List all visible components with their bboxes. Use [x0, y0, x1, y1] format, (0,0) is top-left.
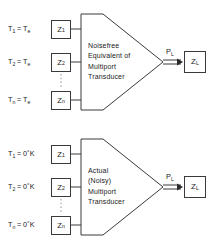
diagram-panel-actual-noisy: T1=0°K T2=0°K Tn=0°K Z1 Z2 Zn Actual (No… [0, 125, 215, 250]
output-power-label: PL [166, 48, 174, 55]
impedance-box-1: Z1 [51, 20, 71, 39]
transducer-block-caption: Actual (Noisy) Multiport Transducer [88, 166, 125, 208]
source-temperature-label-1: T1=Te [8, 25, 31, 32]
impedance-box-2-label: Z2 [52, 179, 70, 196]
impedance-box-2-label: Z2 [52, 54, 70, 71]
load-impedance-label: ZL [185, 52, 205, 72]
impedance-box-n: Zn [51, 216, 71, 235]
figure-canvas: T1=Te T2=Te Tn=Te Z1 Z2 Zn Noisefree Equ… [0, 0, 215, 250]
load-impedance-label: ZL [185, 177, 205, 197]
output-power-label: PL [166, 173, 174, 180]
caption-line-4: Transducer [88, 72, 130, 82]
caption-line-2: Equivalent of [88, 51, 130, 61]
impedance-box-n: Zn [51, 91, 71, 110]
caption-line-1: Actual [88, 166, 125, 176]
impedance-box-n-label: Zn [52, 92, 70, 109]
source-temperature-label-2: T2=0°K [8, 183, 35, 190]
source-temperature-label-1: T1=0°K [8, 150, 35, 157]
source-temperature-label-n: Tn=Te [8, 96, 31, 103]
impedance-box-2: Z2 [51, 53, 71, 72]
load-impedance-box: ZL [184, 51, 206, 73]
caption-line-3: Multiport [88, 62, 130, 72]
source-temperature-label-n: Tn=0°K [8, 221, 35, 228]
source-temperature-label-2: T2=Te [8, 58, 31, 65]
impedance-box-2: Z2 [51, 178, 71, 197]
impedance-box-1-label: Z1 [52, 146, 70, 163]
load-impedance-box: ZL [184, 176, 206, 198]
impedance-box-1-label: Z1 [52, 21, 70, 38]
caption-line-2: (Noisy) [88, 176, 125, 186]
impedance-box-1: Z1 [51, 145, 71, 164]
caption-line-3: Multiport [88, 187, 125, 197]
caption-line-4: Transducer [88, 197, 125, 207]
caption-line-1: Noisefree [88, 41, 130, 51]
impedance-box-n-label: Zn [52, 217, 70, 234]
diagram-panel-noisefree: T1=Te T2=Te Tn=Te Z1 Z2 Zn Noisefree Equ… [0, 0, 215, 125]
transducer-block-caption: Noisefree Equivalent of Multiport Transd… [88, 41, 130, 83]
